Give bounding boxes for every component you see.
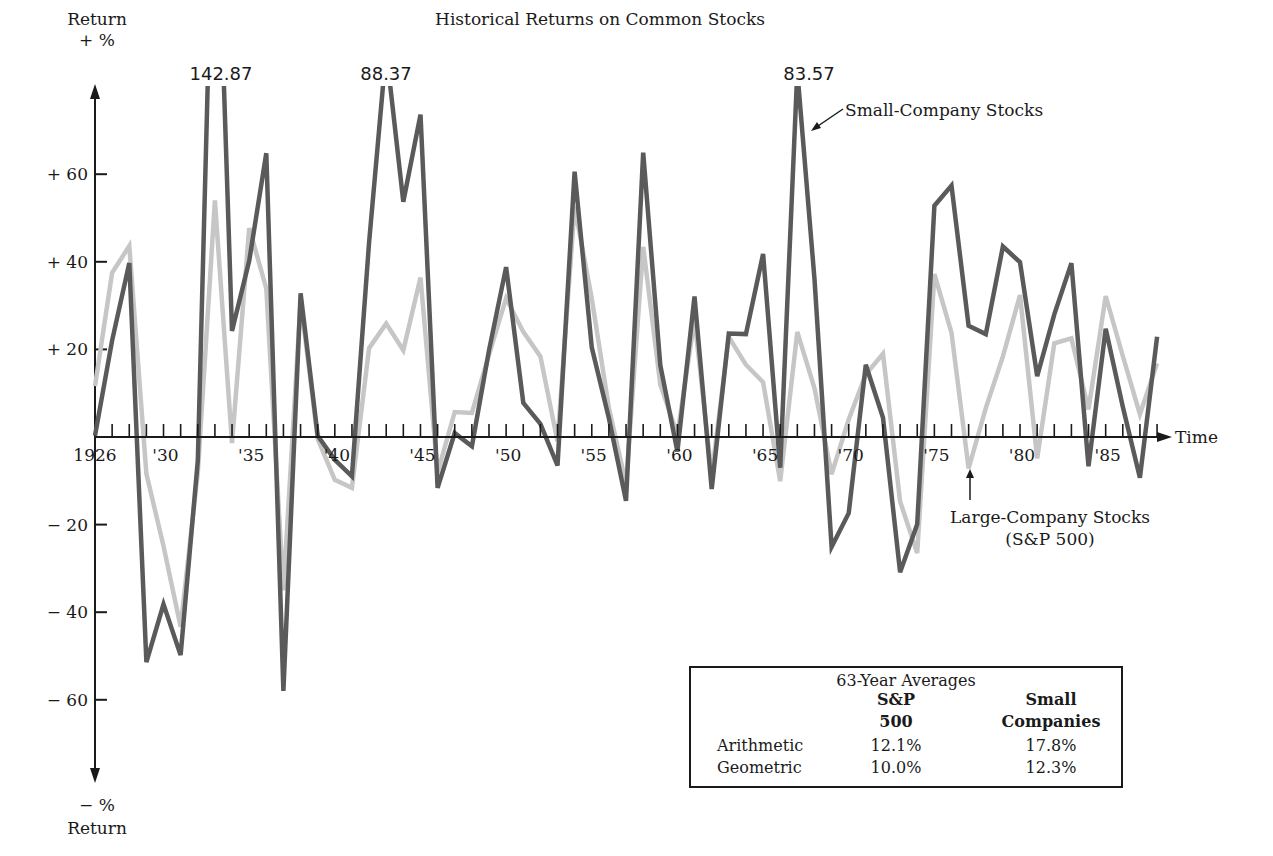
x-tick-label: 1926 xyxy=(73,445,116,465)
y-axis-title-top: Return xyxy=(67,9,127,29)
arithmetic-small-value: 17.8% xyxy=(987,736,1115,755)
small-company-annotation: Small-Company Stocks xyxy=(811,100,1043,131)
arrow-up-icon xyxy=(90,84,100,99)
x-tick-label: '55 xyxy=(581,445,607,465)
peak-label-1967: 83.57 xyxy=(783,63,835,84)
x-tick-label: '30 xyxy=(152,445,178,465)
geometric-small-value: 12.3% xyxy=(987,758,1115,777)
col-header-sp500-line1: S&P xyxy=(841,690,951,710)
arithmetic-sp500-value: 12.1% xyxy=(841,736,951,755)
x-tick-label: '80 xyxy=(1009,445,1035,465)
peak-label-1943: 88.37 xyxy=(360,63,412,84)
col-header-sp500-line2: 500 xyxy=(841,712,951,732)
y-tick-label: − 20 xyxy=(47,515,88,535)
x-tick-label: '45 xyxy=(409,445,435,465)
x-tick-label: '85 xyxy=(1095,445,1121,465)
arrow-icon xyxy=(966,469,974,478)
averages-table-title: 63-Year Averages xyxy=(691,671,1121,690)
large-company-label: Large-Company Stocks xyxy=(950,507,1150,527)
y-tick-label: + 40 xyxy=(47,252,88,272)
x-axis-title: Time xyxy=(1175,427,1218,447)
x-tick-label: '70 xyxy=(838,445,864,465)
x-tick-label: '40 xyxy=(324,445,350,465)
y-axis: + 60+ 40+ 20− 20− 40− 60 xyxy=(47,84,107,783)
x-tick-label: '60 xyxy=(666,445,692,465)
arrow-right-icon xyxy=(1157,432,1172,442)
geometric-sp500-value: 10.0% xyxy=(841,758,951,777)
chart-title: Historical Returns on Common Stocks xyxy=(435,9,765,29)
y-tick-label: + 20 xyxy=(47,339,88,359)
y-axis-unit-top: + % xyxy=(79,30,115,50)
col-header-small-line1: Small xyxy=(987,690,1115,710)
col-header-small-line2: Companies xyxy=(987,712,1115,732)
row-label-arithmetic: Arithmetic xyxy=(717,736,803,755)
large-company-annotation: Large-Company Stocks (S&P 500) xyxy=(950,469,1150,549)
peak-label-1933: 142.87 xyxy=(190,63,253,84)
small-company-label: Small-Company Stocks xyxy=(845,100,1043,120)
averages-table: 63-Year Averages S&P 500 Small Companies… xyxy=(689,666,1123,788)
y-axis-title-bottom: Return xyxy=(67,818,127,838)
row-label-geometric: Geometric xyxy=(717,758,802,777)
x-tick-label: '35 xyxy=(238,445,264,465)
large-company-label-sub: (S&P 500) xyxy=(1005,529,1094,549)
y-tick-label: − 40 xyxy=(47,602,88,622)
y-tick-label: + 60 xyxy=(47,164,88,184)
x-axis: 1926'30'35'40'45'50'55'60'65'70'75'80'85… xyxy=(73,424,1218,465)
x-tick-label: '50 xyxy=(495,445,521,465)
x-tick-label: '65 xyxy=(752,445,778,465)
x-tick-label: '75 xyxy=(923,445,949,465)
arrow-down-icon xyxy=(90,768,100,783)
y-axis-unit-bottom: − % xyxy=(79,795,115,815)
y-tick-label: − 60 xyxy=(47,690,88,710)
arrow-icon xyxy=(811,122,821,131)
